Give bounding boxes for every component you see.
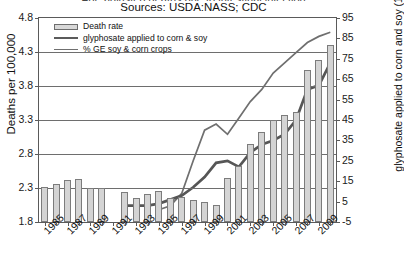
y-tick-right: 45 [342, 113, 354, 125]
tick-mark [90, 222, 91, 226]
tick-mark [336, 120, 340, 121]
y-tick-left: 1.8 [2, 215, 33, 227]
y-tick-right: -5 [342, 215, 351, 227]
tick-mark [148, 222, 149, 226]
tick-mark [307, 222, 308, 226]
legend-swatch-line2-icon [54, 49, 78, 50]
tick-mark [336, 18, 340, 19]
tick-mark [227, 222, 228, 226]
tick-mark [336, 140, 340, 141]
bar [87, 188, 94, 222]
chart-sources: Sources: USDA:NASS; CDC [0, 1, 387, 13]
bar [155, 191, 162, 222]
tick-mark [35, 18, 39, 19]
bar [41, 187, 48, 222]
bar [64, 180, 71, 222]
tick-mark [336, 100, 340, 101]
y-tick-left: 2.8 [2, 147, 33, 159]
y-tick-right: 25 [342, 154, 354, 166]
tick-mark [193, 222, 194, 226]
tick-mark [319, 222, 320, 226]
tick-mark [285, 222, 286, 226]
legend-label-death-rate: Death rate [83, 21, 123, 33]
tick-mark [336, 79, 340, 80]
legend-label-glyphosate: glyphosate applied to corn & soy [83, 33, 207, 45]
tick-mark [35, 120, 39, 121]
chart-legend: Death rate glyphosate applied to corn & … [54, 21, 207, 56]
tick-mark [336, 59, 340, 60]
tick-mark [79, 222, 80, 226]
bar [327, 45, 334, 223]
bar [247, 144, 254, 222]
tick-mark [330, 222, 331, 226]
y-tick-right: 35 [342, 133, 354, 145]
bar [133, 198, 140, 223]
y-tick-left: 4.3 [2, 45, 33, 57]
tick-mark [35, 86, 39, 87]
y-axis-right-title: glyphosate applied to corn and soy (1,00… [392, 0, 404, 181]
tick-mark [35, 52, 39, 53]
y-tick-right: 5 [342, 195, 348, 207]
tick-mark [68, 222, 69, 226]
y-tick-right: 85 [342, 31, 354, 43]
legend-label-ge-crops: % GE soy & corn crops [83, 44, 172, 56]
tick-mark [273, 222, 274, 226]
tick-mark [239, 222, 240, 226]
legend-swatch-bar-icon [54, 24, 78, 30]
y-tick-left: 3.3 [2, 113, 33, 125]
legend-swatch-line-icon [54, 37, 78, 39]
tick-mark [336, 202, 340, 203]
y-tick-left: 4.8 [2, 11, 33, 23]
bar [281, 115, 288, 222]
legend-item-ge-crops: % GE soy & corn crops [54, 44, 207, 56]
tick-mark [336, 222, 340, 223]
tick-mark [182, 222, 183, 226]
y-tick-right: 65 [342, 72, 354, 84]
y-tick-right: 55 [342, 93, 354, 105]
tick-mark [170, 222, 171, 226]
tick-mark [125, 222, 126, 226]
y-tick-right: 15 [342, 174, 354, 186]
tick-mark [35, 188, 39, 189]
tick-mark [159, 222, 160, 226]
bar [293, 112, 300, 222]
tick-mark [35, 222, 39, 223]
tick-mark [336, 38, 340, 39]
y-tick-right: 75 [342, 52, 354, 64]
tick-mark [296, 222, 297, 226]
bar [270, 120, 277, 222]
tick-mark [113, 222, 114, 226]
legend-item-death-rate: Death rate [54, 21, 207, 33]
tick-mark [336, 161, 340, 162]
bar [304, 70, 311, 222]
tick-mark [45, 222, 46, 226]
tick-mark [250, 222, 251, 226]
bar [224, 178, 231, 222]
y-tick-left: 2.3 [2, 181, 33, 193]
tick-mark [136, 222, 137, 226]
y-tick-left: 3.8 [2, 79, 33, 91]
y-tick-right: 95 [342, 11, 354, 23]
legend-item-glyphosate: glyphosate applied to corn & soy [54, 33, 207, 45]
tick-mark [262, 222, 263, 226]
tick-mark [205, 222, 206, 226]
bar [315, 60, 322, 223]
tick-mark [336, 181, 340, 182]
tick-mark [56, 222, 57, 226]
tick-mark [102, 222, 103, 226]
bar [258, 132, 265, 222]
tick-mark [35, 154, 39, 155]
tick-mark [216, 222, 217, 226]
